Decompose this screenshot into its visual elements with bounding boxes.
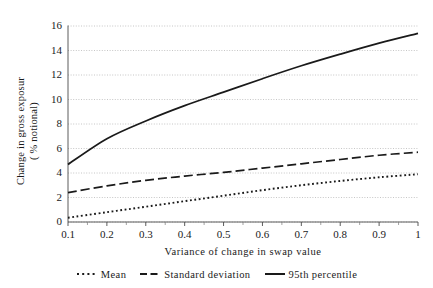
x-tick-label: 0.1: [48, 228, 88, 240]
legend-label: Mean: [101, 269, 127, 280]
legend-line-solid-icon: [264, 270, 286, 278]
x-tick-label: 1: [398, 228, 433, 240]
x-tick-label: 0.7: [281, 228, 321, 240]
x-axis-title: Variance of change in swap value: [68, 246, 418, 257]
chart-figure: Change in gross exposur ( % notional) 02…: [0, 0, 433, 288]
x-tick-label: 0.8: [320, 228, 360, 240]
x-tick-label: 0.2: [87, 228, 127, 240]
x-axis-tick-labels: 0.10.20.30.40.50.60.70.80.91: [0, 0, 433, 288]
legend-line-dotted-icon: [76, 270, 98, 278]
x-tick-label: 0.3: [126, 228, 166, 240]
legend-line-dashed-icon: [139, 270, 161, 278]
chart-legend: MeanStandard deviation95th percentile: [0, 266, 433, 282]
legend-item: 95th percentile: [264, 269, 358, 280]
legend-label: Standard deviation: [164, 269, 250, 280]
x-tick-label: 0.6: [242, 228, 282, 240]
x-tick-label: 0.9: [359, 228, 399, 240]
x-tick-label: 0.5: [204, 228, 244, 240]
legend-item: Mean: [76, 269, 127, 280]
legend-label: 95th percentile: [289, 269, 358, 280]
x-tick-label: 0.4: [165, 228, 205, 240]
legend-item: Standard deviation: [139, 269, 250, 280]
